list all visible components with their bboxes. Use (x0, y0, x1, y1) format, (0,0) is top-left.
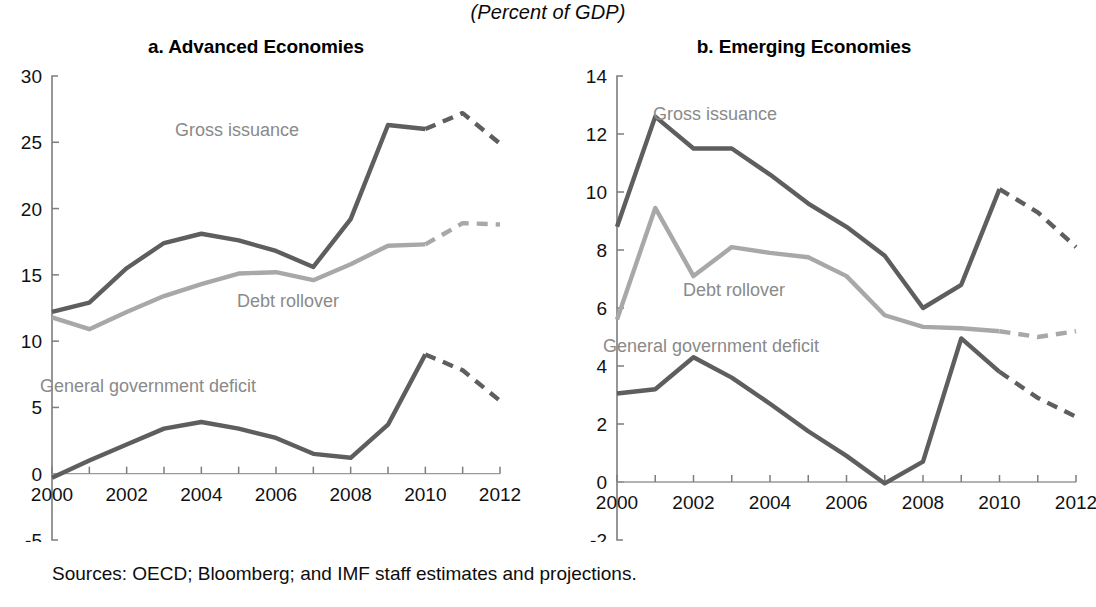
x-axis-tick-label: 2010 (404, 484, 446, 505)
series-annotation-debt-rollover: Debt rollover (683, 280, 785, 300)
x-axis-tick-label: 2002 (106, 484, 148, 505)
x-axis-tick-label: 2012 (1055, 492, 1096, 513)
y-axis-tick-label: 0 (596, 472, 607, 493)
y-axis-tick-label: 20 (21, 199, 42, 220)
series-line-projection (1000, 189, 1077, 247)
series-line-projection (425, 354, 500, 400)
panel-emerging-economies: b. Emerging Economies -20246810121420002… (548, 30, 1096, 542)
x-axis-tick-label: 2000 (31, 484, 73, 505)
series-line-projection (1000, 372, 1077, 417)
y-axis-tick-label: 25 (21, 132, 42, 153)
y-axis-tick-label: 0 (31, 464, 42, 485)
x-axis-tick-label: 2006 (825, 492, 867, 513)
y-axis-tick-label: 10 (586, 182, 607, 203)
y-axis-tick-label: 30 (21, 66, 42, 87)
y-axis-tick-label: 6 (596, 298, 607, 319)
series-line-solid (617, 117, 1000, 308)
source-note: Sources: OECD; Bloomberg; and IMF staff … (52, 563, 637, 585)
series-line-projection (1000, 331, 1077, 337)
figure-units-title: (Percent of GDP) (0, 1, 1096, 24)
y-axis-tick-label: 2 (596, 414, 607, 435)
series-line-solid (617, 338, 1000, 483)
figure-root: (Percent of GDP) a. Advanced Economies -… (0, 0, 1096, 607)
series-line-solid (52, 354, 425, 477)
x-axis-tick-label: 2006 (255, 484, 297, 505)
series-annotation-gross-issuance: Gross issuance (175, 120, 299, 140)
series-annotation-debt-rollover: Debt rollover (237, 291, 339, 311)
series-annotation-general-government-deficit: General government deficit (40, 376, 256, 396)
y-axis-tick-label: 14 (586, 66, 608, 87)
x-axis-tick-label: 2004 (749, 492, 792, 513)
panel-b-plot: -202468101214200020022004200620082010201… (548, 30, 1096, 542)
y-axis-tick-label: -2 (590, 530, 607, 542)
x-axis-tick-label: 2000 (596, 492, 638, 513)
y-axis-tick-label: -5 (25, 530, 42, 542)
panel-advanced-economies: a. Advanced Economies -50510152025302000… (0, 30, 548, 542)
y-axis-tick-label: 4 (596, 356, 607, 377)
x-axis-tick-label: 2002 (672, 492, 714, 513)
y-axis-tick-label: 10 (21, 331, 42, 352)
series-line-solid (52, 125, 425, 312)
x-axis-tick-label: 2010 (978, 492, 1020, 513)
x-axis-tick-label: 2008 (330, 484, 372, 505)
y-axis-tick-label: 5 (31, 397, 42, 418)
series-line-solid (617, 208, 1000, 331)
x-axis-tick-label: 2004 (180, 484, 223, 505)
series-line-projection (425, 113, 500, 143)
panel-a-plot: -505101520253020002002200420062008201020… (0, 30, 548, 542)
y-axis-tick-label: 8 (596, 240, 607, 261)
y-axis-tick-label: 15 (21, 265, 42, 286)
series-annotation-gross-issuance: Gross issuance (653, 104, 777, 124)
series-annotation-general-government-deficit: General government deficit (603, 336, 819, 356)
x-axis-tick-label: 2008 (902, 492, 944, 513)
y-axis-tick-label: 12 (586, 124, 607, 145)
series-line-projection (425, 223, 500, 244)
x-axis-tick-label: 2012 (479, 484, 521, 505)
